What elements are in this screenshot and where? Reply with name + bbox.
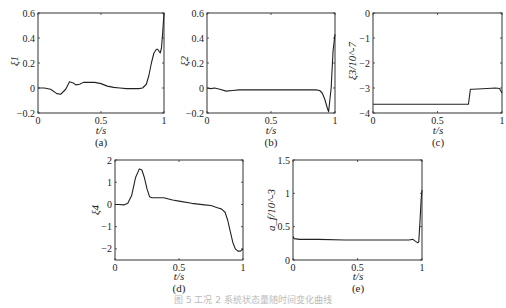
y-tick-label: −1 xyxy=(101,221,112,232)
plot-frame xyxy=(207,13,335,113)
chart-b-ylabel: ξ2 xyxy=(178,41,190,81)
y-tick-label: 0.2 xyxy=(192,58,205,69)
x-tick-label: 0 xyxy=(371,115,376,126)
y-tick-label: 0.6 xyxy=(23,8,36,19)
x-tick-label: 1 xyxy=(333,115,338,126)
y-tick-label: 1 xyxy=(107,177,112,188)
chart-d-xlabel: t/s xyxy=(159,270,199,282)
chart-d-ylabel: ξ4 xyxy=(89,190,101,230)
x-tick-label: 1 xyxy=(162,115,167,126)
data-series-line xyxy=(207,34,335,112)
y-tick-label: 0 xyxy=(30,83,35,94)
x-tick-label: 0 xyxy=(36,115,41,126)
chart-e-ylabel: a_f/10^-3 xyxy=(265,180,277,240)
chart-e-svg: 00.5100.511.5 xyxy=(293,160,422,260)
y-tick-label: 0.6 xyxy=(192,8,205,19)
y-tick-label: 0.2 xyxy=(23,58,36,69)
chart-c-panel-label: (c) xyxy=(418,136,458,148)
plot-frame xyxy=(115,160,243,260)
plot-frame xyxy=(373,13,502,113)
chart-a-panel-label: (a) xyxy=(81,136,121,148)
chart-c-svg: 00.51−4−3−2−10 xyxy=(373,13,502,113)
chart-panel-d: 00.51−2−1012 xyxy=(115,160,243,260)
chart-panel-a: 00.51−0.200.20.40.6 xyxy=(38,13,164,113)
y-tick-label: 0.4 xyxy=(192,33,205,44)
chart-b-svg: 00.51−0.200.20.40.6 xyxy=(207,13,335,113)
x-tick-label: 0 xyxy=(113,262,118,273)
x-tick-label: 0 xyxy=(291,262,296,273)
chart-a-svg: 00.51−0.200.20.40.6 xyxy=(38,13,164,113)
data-series-line xyxy=(293,190,422,243)
chart-panel-e: 00.5100.511.5 xyxy=(293,160,422,260)
chart-d-svg: 00.51−2−1012 xyxy=(115,160,243,260)
chart-e-xlabel: t/s xyxy=(338,270,378,282)
data-series-line xyxy=(373,88,502,104)
data-series-line xyxy=(38,13,164,94)
y-tick-label: −1 xyxy=(359,33,370,44)
data-series-line xyxy=(115,169,243,251)
x-tick-label: 1 xyxy=(420,262,425,273)
y-tick-label: −2 xyxy=(101,243,112,254)
y-tick-label: 1.5 xyxy=(278,155,291,166)
y-tick-label: −3 xyxy=(359,83,370,94)
chart-b-xlabel: t/s xyxy=(251,124,291,136)
y-tick-label: 0 xyxy=(285,255,290,266)
chart-a-xlabel: t/s xyxy=(81,124,121,136)
chart-panel-b: 00.51−0.200.20.40.6 xyxy=(207,13,335,113)
chart-a-ylabel: ξ1 xyxy=(8,41,20,81)
chart-panel-c: 00.51−4−3−2−10 xyxy=(373,13,502,113)
chart-c-xlabel: t/s xyxy=(418,124,458,136)
plot-frame xyxy=(293,160,422,260)
y-tick-label: 0.5 xyxy=(278,221,291,232)
y-tick-label: 0 xyxy=(107,199,112,210)
plot-frame xyxy=(38,13,164,113)
x-tick-label: 0 xyxy=(205,115,210,126)
x-tick-label: 1 xyxy=(241,262,246,273)
y-tick-label: −0.2 xyxy=(17,108,35,119)
chart-c-ylabel: ξ3/10^-7 xyxy=(346,31,358,91)
y-tick-label: −4 xyxy=(359,108,370,119)
y-tick-label: 1 xyxy=(285,188,290,199)
y-tick-label: 0 xyxy=(199,83,204,94)
y-tick-label: 0 xyxy=(365,8,370,19)
y-tick-label: −0.2 xyxy=(186,108,204,119)
y-tick-label: −2 xyxy=(359,58,370,69)
y-tick-label: 2 xyxy=(107,155,112,166)
y-tick-label: 0.4 xyxy=(23,33,36,44)
figure-caption: 图 5 工况 2 系统状态量随时间变化曲线 xyxy=(0,293,506,306)
x-tick-label: 1 xyxy=(500,115,505,126)
chart-b-panel-label: (b) xyxy=(251,136,291,148)
